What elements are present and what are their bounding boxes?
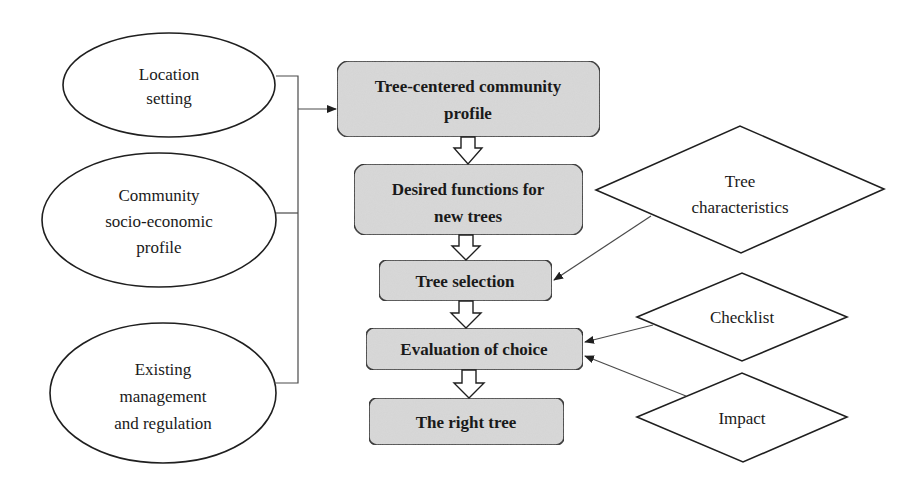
arrow-checklist-to-evaluation <box>585 325 653 342</box>
input-existing-line-1: Existing <box>135 360 192 379</box>
modifier-characteristics-line-2: characteristics <box>691 198 788 217</box>
block-arrow-functions-to-selection <box>452 235 480 260</box>
flowchart-canvas: Location setting Community socio-economi… <box>0 0 921 489</box>
modifier-tree-characteristics: Tree characteristics <box>596 126 884 253</box>
input-location-line-1: Location <box>139 65 200 84</box>
input-location-line-2: setting <box>146 89 192 108</box>
process-profile-line-1: Tree-centered community <box>375 77 562 96</box>
input-existing-line-2: management <box>120 387 207 406</box>
process-the-right-tree: The right tree <box>369 398 564 445</box>
modifier-impact-label: Impact <box>718 409 765 428</box>
modifier-checklist-label: Checklist <box>710 308 774 327</box>
input-community-profile: Community socio-economic profile <box>42 153 276 287</box>
process-evaluation-label: Evaluation of choice <box>400 340 548 359</box>
process-functions-line-1: Desired functions for <box>392 180 545 199</box>
process-tree-selection: Tree selection <box>379 260 552 301</box>
modifier-checklist: Checklist <box>637 273 847 361</box>
block-arrow-profile-to-functions <box>454 137 482 164</box>
arrow-impact-to-evaluation <box>585 356 686 396</box>
modifier-impact: Impact <box>637 373 847 462</box>
block-arrow-selection-to-evaluation <box>451 301 481 328</box>
process-evaluation-of-choice: Evaluation of choice <box>366 328 583 370</box>
input-location-setting: Location setting <box>63 33 275 137</box>
process-functions-line-2: new trees <box>434 207 503 226</box>
process-tree-centered-community-profile: Tree-centered community profile <box>337 61 600 137</box>
block-arrow-evaluation-to-result <box>454 370 484 398</box>
input-community-line-3: profile <box>136 238 181 257</box>
modifier-characteristics-line-1: Tree <box>725 172 756 191</box>
input-existing-line-3: and regulation <box>114 414 212 433</box>
process-profile-line-2: profile <box>444 104 492 123</box>
process-result-label: The right tree <box>416 413 517 432</box>
process-selection-label: Tree selection <box>416 272 516 291</box>
input-community-line-1: Community <box>118 186 200 205</box>
input-community-line-2: socio-economic <box>105 212 213 231</box>
input-existing-management: Existing management and regulation <box>50 323 276 463</box>
process-desired-functions: Desired functions for new trees <box>354 164 583 235</box>
input-bracket-connector <box>274 76 336 383</box>
